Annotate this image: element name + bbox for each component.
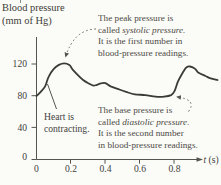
heart-contracting-note: Heart is contracting.: [44, 111, 90, 136]
blood-pressure-curve: [37, 63, 218, 97]
diastolic-note: The base pressure is called diastolic pr…: [98, 105, 198, 152]
y-tick-label-80: 80: [0, 91, 27, 101]
systolic-note-line2: called systolic pressure.: [98, 25, 188, 37]
y-axis-title: Blood pressure (mm of Hg): [2, 2, 65, 27]
systolic-note-term: systolic pressure.: [122, 25, 185, 35]
diastolic-note-line4: in blood-pressure readings.: [98, 140, 198, 152]
heart-note-line2: contracting.: [44, 123, 90, 135]
systolic-note: The peak pressure is called systolic pre…: [98, 13, 188, 60]
diastolic-note-term: diastolic pressure.: [122, 117, 189, 127]
diastolic-note-line2: called diastolic pressure.: [98, 117, 198, 129]
x-tick-label-0: 0: [26, 164, 48, 174]
y-tick-label-120: 120: [0, 59, 27, 69]
diastolic-note-line3: It is the second number: [98, 128, 198, 140]
systolic-note-line1: The peak pressure is: [98, 13, 188, 25]
systolic-note-line2-prefix: called: [98, 25, 122, 35]
diastolic-note-line2-prefix: called: [98, 117, 122, 127]
x-axis-title: t (s): [204, 154, 219, 165]
x-tick-label-0_6: 0.6: [129, 164, 151, 174]
x-axis-arrow-icon: [197, 157, 204, 162]
x-tick-label-0_8: 0.8: [164, 164, 186, 174]
x-tick-label-0_4: 0.4: [95, 164, 117, 174]
heart-note-pointer-line: [48, 84, 57, 109]
blood-pressure-figure: Blood pressure (mm of Hg) 120 80 40 0 0 …: [0, 0, 221, 185]
systolic-note-line3: It is the first number in: [98, 36, 188, 48]
x-axis-ticks: [71, 160, 175, 164]
x-axis-unit: (s): [206, 154, 219, 165]
y-tick-label-40: 40: [0, 123, 27, 133]
heart-note-line1: Heart is: [44, 111, 90, 123]
systolic-leader-arrow-icon: [66, 29, 97, 57]
y-tick-label-0: 0: [0, 152, 27, 162]
systolic-note-line4: blood-pressure readings.: [98, 48, 188, 60]
y-axis-title-line2: (mm of Hg): [2, 15, 65, 28]
diastolic-note-line1: The base pressure is: [98, 105, 198, 117]
x-tick-label-0_2: 0.2: [60, 164, 82, 174]
y-axis-title-line1: Blood pressure: [2, 2, 65, 15]
y-axis-ticks: [32, 64, 37, 160]
